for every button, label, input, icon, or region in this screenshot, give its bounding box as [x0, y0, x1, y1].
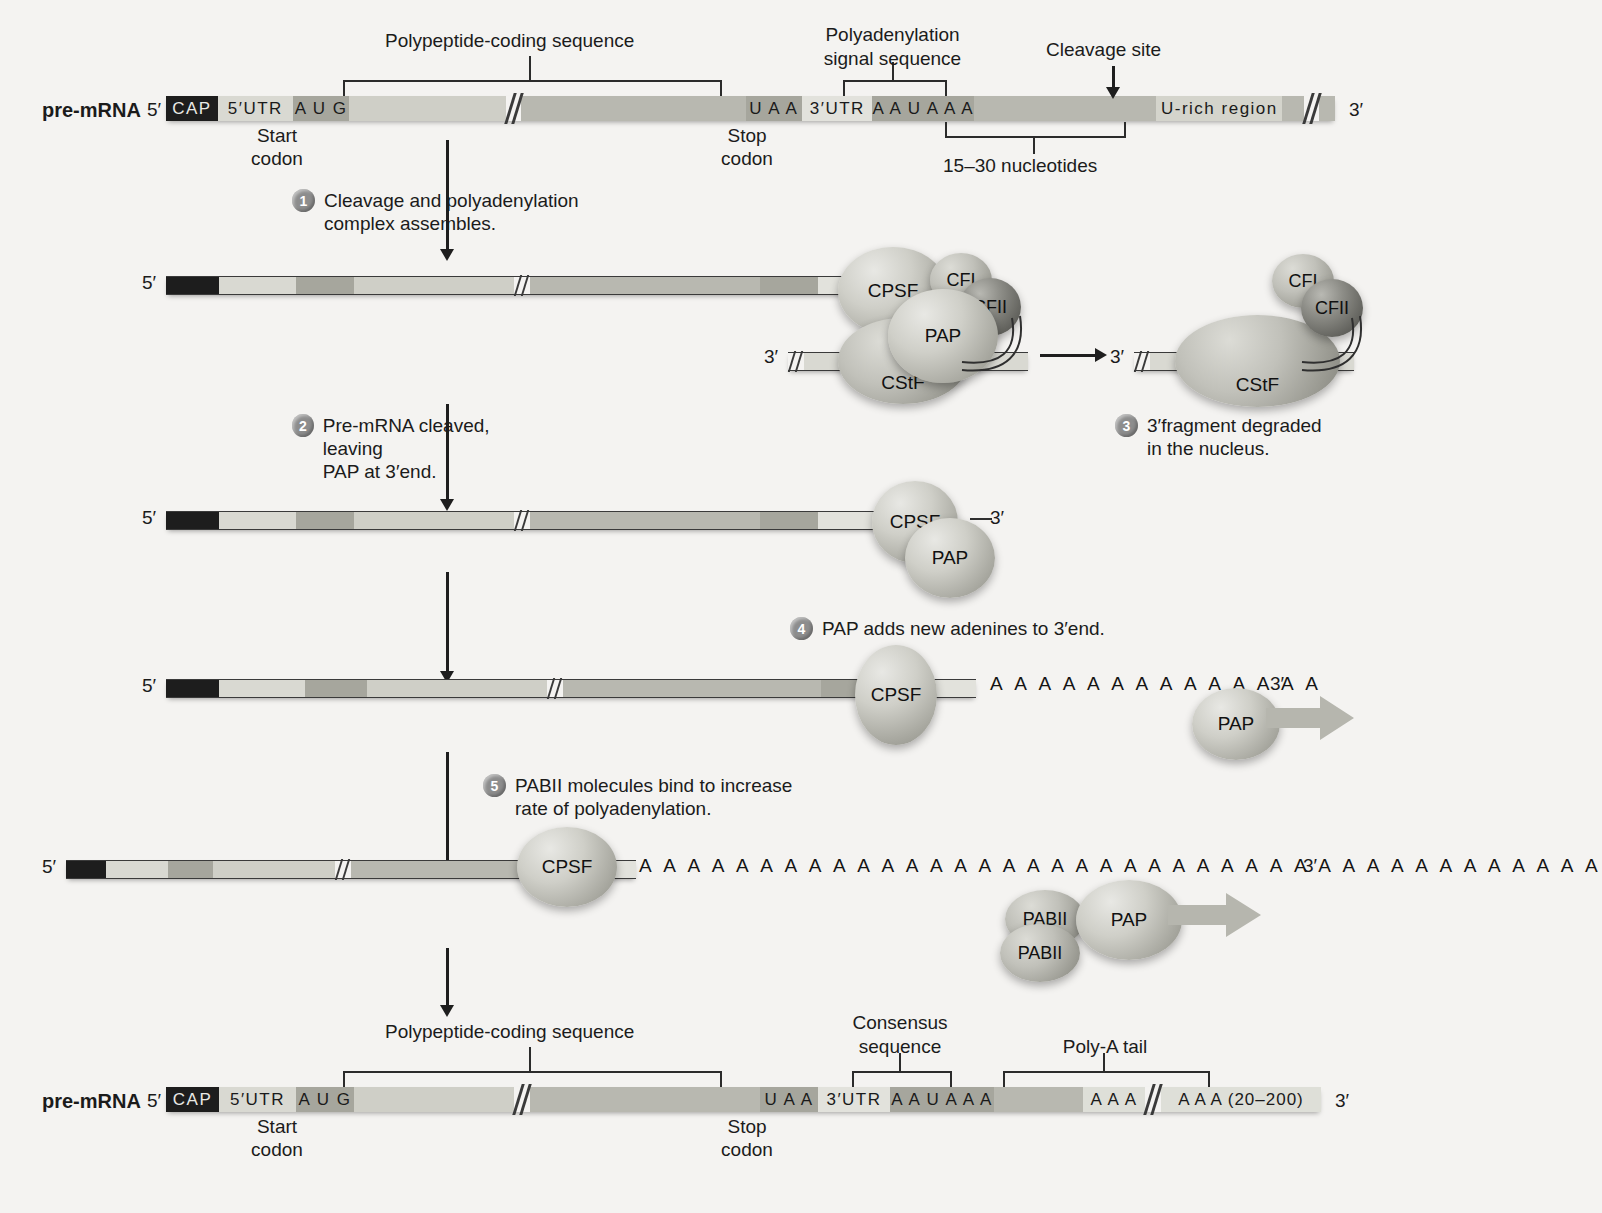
- stage2-mrna-strand: [166, 511, 886, 530]
- bracket-polyadenylation-signal: [843, 80, 947, 96]
- segment-u-rich-region: U-rich region: [1156, 96, 1282, 121]
- bottom-segment-coding-2: [530, 1087, 760, 1112]
- label-cleavage-site: Cleavage site: [1046, 39, 1161, 61]
- pap-direction-arrow-stage4: [1266, 694, 1356, 742]
- blob-cpsf-stage5: CPSF: [517, 827, 617, 907]
- stage1-start-codon: [296, 277, 354, 294]
- stage2-start-codon: [296, 512, 354, 529]
- step-4-text: PAP adds new adenines to 3′end.: [822, 617, 1105, 640]
- bracket-poly-a-tail: [1003, 1071, 1210, 1087]
- blob-pap-stage2: PAP: [905, 518, 995, 598]
- stage5-coding-1: [213, 861, 335, 878]
- segment-coding-2: [521, 96, 745, 121]
- stage1-five-utr: [219, 277, 296, 294]
- stage2-five-utr: [219, 512, 296, 529]
- blob-cpsf-stage4: CPSF: [855, 645, 937, 745]
- bottom-segment-polya-end: A A A (20–200): [1161, 1087, 1321, 1112]
- step-3-line2: in the nucleus.: [1147, 437, 1322, 460]
- bottom-label-start-codon-line2: codon: [222, 1139, 332, 1161]
- segment-cap: CAP: [166, 96, 218, 121]
- segment-stop-codon: U A A: [746, 96, 803, 121]
- segment-downstream: [974, 96, 1156, 121]
- bottom-segment-coding-1: [354, 1087, 514, 1112]
- stage1-rna-loop: [960, 300, 1040, 380]
- bracket-consensus-sequence: [852, 1071, 952, 1087]
- label-start-codon-line1: Start: [222, 125, 332, 147]
- step-4-line1: PAP adds new adenines to 3′end.: [822, 617, 1105, 640]
- bottom-break-mark-icon: [514, 1087, 530, 1112]
- bottom-polya-break-icon: [1145, 1087, 1161, 1112]
- flow-arrow-4: [446, 752, 449, 862]
- stage5-three-prime: 3′: [1303, 855, 1317, 877]
- step-3: 3 3′fragment degraded in the nucleus.: [1115, 414, 1375, 460]
- top-mrna-row-label: pre-mRNA: [42, 99, 141, 121]
- step-5-badge: 5: [483, 774, 506, 797]
- segment-polya-signal: A A U A A A: [872, 96, 974, 121]
- stage2-cap: [166, 512, 219, 529]
- flow-arrow-to-step3: [1040, 354, 1096, 357]
- stage1-fragment-three-prime: 3′: [764, 346, 778, 368]
- bottom-segment-start-codon: A U G: [296, 1087, 354, 1112]
- label-poly-a-tail: Poly-A tail: [1020, 1036, 1190, 1058]
- label-consensus-line2: sequence: [795, 1036, 1005, 1058]
- bottom-bracket-polypeptide-coding: [343, 1071, 722, 1087]
- sequence-break-mark-icon: [506, 96, 522, 121]
- bottom-mrna-bar: CAP 5′UTR A U G U A A 3′UTR A A U A A A …: [166, 1087, 1321, 1112]
- top-mrna-bar: CAP 5′UTR A U G U A A 3′UTR A A U A A A …: [166, 96, 1335, 121]
- stage2-break-icon: [514, 512, 530, 529]
- stage5-break-icon: [335, 861, 351, 878]
- bottom-mrna-row-label: pre-mRNA: [42, 1090, 141, 1112]
- label-polyadenylation-signal-line1: Polyadenylation: [785, 24, 1000, 46]
- stage1-five-prime: 5′: [142, 272, 156, 294]
- step-5-text: PABII molecules bind to increase rate of…: [515, 774, 792, 820]
- flow-arrow-3: [446, 572, 449, 672]
- stage2-stop-codon: [760, 512, 818, 529]
- step-5-line2: rate of polyadenylation.: [515, 797, 792, 820]
- step-3-text: 3′fragment degraded in the nucleus.: [1147, 414, 1322, 460]
- stage5-start-codon: [168, 861, 213, 878]
- stage5-adenine-run: A A A A A A A A A A A A A A A A A A A A …: [639, 855, 1602, 877]
- blob-pabii-stage5-b: PABII: [1000, 924, 1080, 982]
- step-1: 1 Cleavage and polyadenylation complex a…: [292, 189, 582, 235]
- step-2-line2: PAP at 3′end.: [323, 460, 542, 483]
- stage3-rna-loop: [1300, 300, 1380, 380]
- stage1-coding-1: [354, 277, 514, 294]
- top-three-prime-label: 3′: [1349, 99, 1363, 121]
- bracket-polypeptide-coding: [343, 80, 722, 96]
- bottom-five-prime-label: 5′: [147, 1090, 161, 1112]
- stage1-stop-codon: [760, 277, 818, 294]
- stage1-cap: [166, 277, 219, 294]
- bottom-segment-consensus: A A U A A A: [890, 1087, 994, 1112]
- segment-five-utr: 5′UTR: [218, 96, 293, 121]
- flow-arrow-5: [446, 948, 449, 1006]
- label-stop-codon-line2: codon: [692, 148, 802, 170]
- stage2-three-prime-tick: [970, 518, 992, 520]
- bottom-bracket-tick-polypeptide: [529, 1047, 531, 1072]
- bottom-segment-spacer: [994, 1087, 1083, 1112]
- stage4-coding-1: [367, 680, 547, 697]
- step-5: 5 PABII molecules bind to increase rate …: [483, 774, 903, 820]
- blob-pap-stage5: PAP: [1076, 880, 1182, 960]
- label-15-30-nucleotides: 15–30 nucleotides: [943, 155, 1097, 177]
- bottom-label-start-codon-line1: Start: [222, 1116, 332, 1138]
- bottom-label-stop-codon-line1: Stop: [692, 1116, 802, 1138]
- bottom-segment-cap: CAP: [166, 1087, 219, 1112]
- bottom-label-polypeptide-coding-sequence: Polypeptide-coding sequence: [385, 1021, 634, 1043]
- sequence-break-mark-2-icon: [1304, 96, 1320, 121]
- step-1-line2: complex assembles.: [324, 212, 579, 235]
- step-4-badge: 4: [790, 617, 813, 640]
- cleavage-site-arrow: [1112, 66, 1115, 88]
- step-4: 4 PAP adds new adenines to 3′end.: [790, 617, 1210, 640]
- bracket-nucleotide-span: [945, 122, 1126, 138]
- stage2-three-prime: 3′: [990, 507, 1004, 529]
- step-3-badge: 3: [1115, 414, 1138, 437]
- bottom-segment-polya-start: A A A: [1083, 1087, 1145, 1112]
- stage4-cap: [166, 680, 219, 697]
- pap-direction-arrow-stage5: [1168, 890, 1263, 940]
- stage5-coding-2: [351, 861, 519, 878]
- bracket-tick-polypeptide: [529, 56, 531, 81]
- stage5-cap: [66, 861, 106, 878]
- blob-cstf-stage3-label: CStF: [1236, 374, 1279, 396]
- label-polypeptide-coding-sequence: Polypeptide-coding sequence: [385, 30, 634, 52]
